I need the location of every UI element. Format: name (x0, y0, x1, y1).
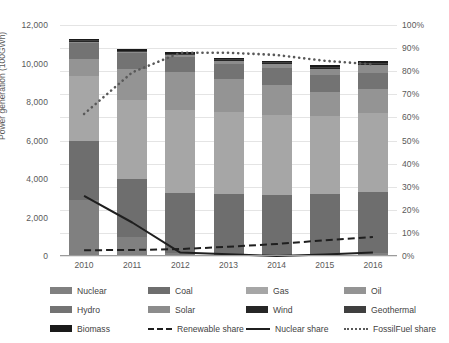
legend-swatch-icon (50, 306, 72, 313)
secondary-y-tick-label: 90% (402, 43, 419, 53)
secondary-y-tick-label: 50% (402, 136, 419, 146)
x-tick-label: 2011 (123, 260, 141, 270)
y-tick-label: 8,000 (26, 97, 48, 107)
legend-item-oil[interactable]: Oil (344, 286, 442, 296)
x-tick-label: 2012 (171, 260, 190, 270)
y-tick-label: 2,000 (26, 213, 48, 223)
legend-label: Hydro (77, 305, 100, 315)
legend-label: Wind (273, 305, 293, 315)
legend-swatch-icon (246, 287, 268, 294)
legend-swatch-icon (246, 306, 268, 313)
secondary-y-tick-label: 60% (402, 112, 419, 122)
gridline (60, 256, 397, 257)
line-renewable-share (84, 237, 373, 250)
legend-label: Nuclear share (275, 324, 329, 334)
legend-item-wind[interactable]: Wind (246, 305, 344, 315)
y-axis-title: Power generation (100GWh) (0, 32, 7, 140)
x-tick-label: 2010 (75, 260, 94, 270)
legend-label: Nuclear (77, 286, 107, 296)
y-tick-label: 10,000 (21, 59, 48, 69)
secondary-y-tick-label: 20% (402, 205, 419, 215)
line-overlay (60, 25, 397, 256)
legend-item-renewable-share[interactable]: Renewable share (148, 324, 246, 334)
y-tick-label: 12,000 (21, 20, 48, 30)
legend-item-nuclear[interactable]: Nuclear (50, 286, 148, 296)
plot-area (60, 25, 397, 256)
secondary-y-tick-label: 80% (402, 66, 419, 76)
legend-swatch-icon (148, 306, 170, 313)
legend-item-nuclear-share[interactable]: Nuclear share (246, 324, 344, 334)
x-tick-label: 2016 (363, 260, 382, 270)
legend-label: Geothermal (371, 305, 416, 315)
legend-item-coal[interactable]: Coal (148, 286, 246, 296)
x-tick-label: 2015 (315, 260, 334, 270)
legend-item-solar[interactable]: Solar (148, 305, 246, 315)
x-tick-label: 2013 (219, 260, 238, 270)
legend-label: Renewable share (177, 324, 244, 334)
legend-label: Coal (175, 286, 193, 296)
legend-label: Gas (273, 286, 289, 296)
x-tick-label: 2014 (267, 260, 286, 270)
chart-legend: NuclearCoalGasOilHydroSolarWindGeotherma… (50, 281, 442, 338)
legend-item-gas[interactable]: Gas (246, 286, 344, 296)
legend-swatch-icon (344, 306, 366, 313)
legend-item-geothermal[interactable]: Geothermal (344, 305, 442, 315)
legend-item-hydro[interactable]: Hydro (50, 305, 148, 315)
secondary-y-tick-label: 10% (402, 228, 419, 238)
legend-label: Biomass (77, 324, 110, 334)
secondary-y-tick-label: 0% (402, 251, 415, 261)
legend-item-biomass[interactable]: Biomass (50, 324, 148, 334)
legend-item-fossilfuel-share[interactable]: FossilFuel share (344, 324, 442, 334)
y-tick-label: 4,000 (26, 174, 48, 184)
legend-label: FossilFuel share (373, 324, 436, 334)
legend-label: Solar (175, 305, 195, 315)
secondary-y-tick-label: 100% (402, 20, 424, 30)
y-tick-label: 6,000 (26, 136, 48, 146)
legend-swatch-icon (148, 287, 170, 294)
legend-swatch-icon (50, 325, 72, 332)
line-fossilfuel-share (84, 53, 373, 114)
y-tick-label: 0 (43, 251, 48, 261)
legend-swatch-icon (50, 287, 72, 294)
x-axis-line (60, 255, 397, 257)
chart-container: Power generation (100GWh) 02,0004,0006,0… (0, 0, 449, 343)
legend-line-icon (246, 325, 270, 333)
legend-label: Oil (371, 286, 382, 296)
secondary-y-tick-label: 30% (402, 182, 419, 192)
secondary-y-tick-label: 70% (402, 89, 419, 99)
secondary-y-tick-label: 40% (402, 159, 419, 169)
legend-swatch-icon (344, 287, 366, 294)
legend-line-icon (148, 325, 172, 333)
legend-line-icon (344, 325, 368, 333)
